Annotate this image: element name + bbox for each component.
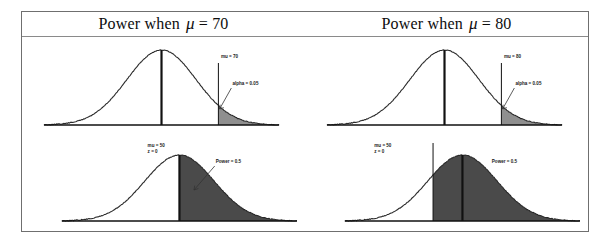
alpha-label-right: alpha = 0.05 bbox=[515, 81, 541, 86]
column-mu80: mu = 80 alpha = 0.05 mu = 50 bbox=[305, 37, 588, 231]
header-title-prefix-left: Power when bbox=[98, 15, 180, 33]
mu-symbol-left: μ bbox=[180, 14, 198, 34]
figure-frame: Power when μ = 70 Power when μ = 80 bbox=[21, 11, 589, 232]
alternative-distribution-chart-left: mu = 50 z = 0 Power = 0.5 bbox=[22, 133, 305, 231]
null-distribution-chart-left: mu = 70 alpha = 0.05 bbox=[22, 37, 305, 137]
power-shade-right bbox=[433, 155, 580, 221]
alpha-arrow-left bbox=[220, 88, 232, 109]
alpha-arrow-right bbox=[503, 88, 515, 109]
plot-bottom-left: mu = 50 z = 0 Power = 0.5 bbox=[22, 133, 305, 231]
header-cell-mu80: Power when μ = 80 bbox=[305, 12, 588, 36]
mu-symbol-right: μ bbox=[463, 14, 481, 34]
power-figure: Power when μ = 70 Power when μ = 80 bbox=[0, 0, 610, 244]
mu-label-top-left: mu = 70 bbox=[221, 54, 239, 59]
plots-area: mu = 70 alpha = 0.05 mu = 50 z bbox=[22, 37, 588, 231]
power-label-right: Power = 0.5 bbox=[492, 159, 518, 164]
power-label-left: Power = 0.5 bbox=[216, 159, 242, 164]
header-title-prefix-right: Power when bbox=[381, 15, 463, 33]
alpha-label-left: alpha = 0.05 bbox=[232, 81, 258, 86]
header-title-value-left: = 70 bbox=[198, 15, 229, 33]
column-mu70: mu = 70 alpha = 0.05 mu = 50 z bbox=[22, 37, 305, 231]
header-title-value-right: = 80 bbox=[481, 15, 512, 33]
mu-label-bottom-left: mu = 50 bbox=[148, 143, 166, 148]
power-shade-left bbox=[179, 155, 297, 221]
z-label-bottom-left: z = 0 bbox=[148, 149, 158, 154]
mu-label-top-right: mu = 80 bbox=[504, 54, 522, 59]
z-label-bottom-right: z = 0 bbox=[374, 149, 384, 154]
null-distribution-chart-right: mu = 80 alpha = 0.05 bbox=[305, 37, 588, 137]
header-cell-mu70: Power when μ = 70 bbox=[22, 12, 305, 36]
plot-bottom-right: mu = 50 z = 0 Power = 0.5 bbox=[305, 133, 588, 231]
alternative-distribution-chart-right: mu = 50 z = 0 Power = 0.5 bbox=[305, 133, 588, 231]
plot-top-left: mu = 70 alpha = 0.05 bbox=[22, 37, 305, 137]
plot-top-right: mu = 80 alpha = 0.05 bbox=[305, 37, 588, 137]
header-row: Power when μ = 70 Power when μ = 80 bbox=[22, 12, 588, 37]
mu-label-bottom-right: mu = 50 bbox=[374, 143, 392, 148]
